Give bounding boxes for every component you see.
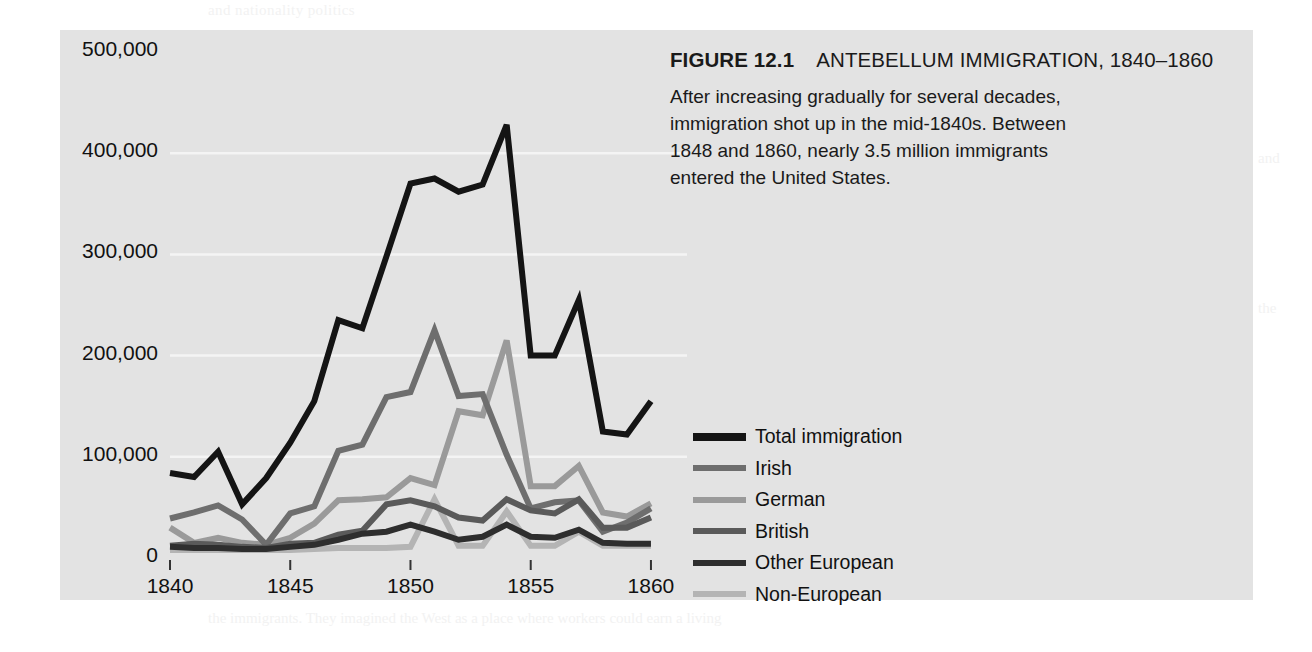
axis-group: [170, 560, 651, 570]
legend-item-label: Total immigration: [755, 425, 902, 448]
x-axis-label: 1850: [365, 574, 455, 598]
legend-item-label: Non-European: [755, 583, 882, 606]
figure-title-line: FIGURE 12.1 ANTEBELLUM IMMIGRATION, 1840…: [670, 48, 1210, 72]
legend-item-label: Irish: [755, 457, 792, 480]
y-axis-label: 300,000: [38, 239, 158, 263]
x-axis-label: 1840: [125, 574, 215, 598]
ghost-page-right-1: and: [1258, 150, 1280, 167]
y-axis-label: 500,000: [38, 37, 158, 61]
y-axis-label: 0: [38, 543, 158, 567]
legend-item-label: Other European: [755, 551, 894, 574]
series-line-irish: [170, 330, 651, 545]
figure-caption-text: After increasing gradually for several d…: [670, 83, 1107, 191]
legend-item-label: German: [755, 488, 825, 511]
series-group: [170, 125, 651, 550]
ghost-page-right-2: the: [1258, 300, 1276, 317]
x-axis-label: 1860: [606, 574, 696, 598]
series-line-total-immigration: [170, 125, 651, 505]
legend-item[interactable]: Irish: [693, 453, 902, 485]
figure-caption: FIGURE 12.1 ANTEBELLUM IMMIGRATION, 1840…: [670, 48, 1210, 191]
legend-item[interactable]: Other European: [693, 547, 902, 579]
legend-item[interactable]: British: [693, 516, 902, 548]
legend-swatch-line-icon: [693, 591, 746, 597]
x-axis-label: 1845: [245, 574, 335, 598]
chart-legend: Total immigrationIrishGermanBritishOther…: [693, 421, 902, 610]
ghost-page-line-bottom: the immigrants. They imagined the West a…: [208, 610, 722, 627]
legend-item[interactable]: Total immigration: [693, 421, 902, 453]
legend-swatch-line-icon: [693, 497, 746, 503]
legend-item[interactable]: Non-European: [693, 579, 902, 611]
y-axis-label: 400,000: [38, 138, 158, 162]
series-line-german: [170, 340, 651, 544]
figure-panel: 0100,000200,000300,000400,000500,000 184…: [60, 30, 1253, 600]
legend-item[interactable]: German: [693, 484, 902, 516]
y-axis-label: 100,000: [38, 442, 158, 466]
legend-swatch-line-icon: [693, 433, 746, 441]
figure-number: FIGURE 12.1: [670, 48, 794, 71]
legend-swatch-line-icon: [693, 560, 746, 566]
legend-swatch-line-icon: [693, 528, 746, 534]
legend-swatch-line-icon: [693, 465, 746, 471]
gridlines-group: [170, 153, 687, 457]
figure-heading: ANTEBELLUM IMMIGRATION, 1840–1860: [816, 48, 1213, 71]
legend-item-label: British: [755, 520, 809, 543]
y-axis-label: 200,000: [38, 341, 158, 365]
x-axis-label: 1855: [486, 574, 576, 598]
ghost-page-text-top: and nationality politics: [208, 2, 355, 19]
